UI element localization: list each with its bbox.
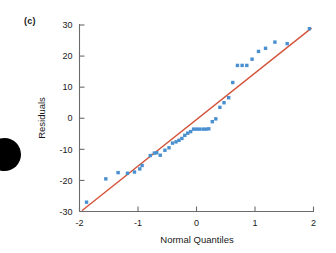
qq-plot: -30-20-100102030 -2-1012 Normal Quantile… — [0, 0, 336, 253]
data-point — [227, 96, 230, 99]
data-point — [222, 101, 225, 104]
data-point — [285, 42, 288, 45]
data-point — [159, 154, 162, 157]
data-point — [264, 47, 267, 50]
data-point — [231, 81, 234, 84]
x-tick-label: -2 — [75, 218, 83, 228]
data-point — [116, 171, 119, 174]
qq-plot-svg: -30-20-100102030 -2-1012 Normal Quantile… — [0, 0, 336, 253]
y-tick-label: -10 — [59, 145, 72, 155]
data-point — [140, 164, 143, 167]
data-point — [201, 127, 204, 130]
reference-line — [82, 28, 311, 210]
figure-panel: (c) -30-20-100102030 -2-1012 Normal Quan… — [0, 0, 336, 253]
data-point — [250, 57, 253, 60]
data-point — [167, 146, 170, 149]
data-point — [273, 40, 276, 43]
reference-line-segment — [82, 28, 311, 210]
data-point — [308, 27, 311, 30]
data-point — [240, 64, 243, 67]
data-point — [155, 151, 158, 154]
data-point — [195, 127, 198, 130]
data-point — [149, 154, 152, 157]
data-point — [189, 130, 192, 133]
data-point — [174, 140, 177, 143]
y-axis-title: Residuals — [36, 97, 47, 139]
data-point — [163, 149, 166, 152]
data-point — [183, 134, 186, 137]
data-point — [133, 170, 136, 173]
data-point — [218, 106, 221, 109]
y-tick-label: 20 — [62, 51, 72, 61]
y-tick-label: 10 — [62, 82, 72, 92]
data-point — [236, 64, 239, 67]
y-tick-label: 0 — [67, 113, 72, 123]
x-axis-title: Normal Quantiles — [160, 234, 234, 245]
data-point — [214, 117, 217, 120]
x-tick-label: 2 — [311, 218, 316, 228]
y-tick-group: -30-20-100102030 — [59, 20, 84, 217]
data-point — [245, 64, 248, 67]
data-point — [204, 127, 207, 130]
axes — [80, 24, 315, 212]
data-point — [207, 127, 210, 130]
data-point — [198, 127, 201, 130]
x-tick-label: 1 — [252, 218, 257, 228]
y-tick-label: 30 — [62, 20, 72, 30]
data-point — [180, 137, 183, 140]
x-tick-label: -1 — [134, 218, 142, 228]
data-point — [104, 177, 107, 180]
y-tick-label: -20 — [59, 176, 72, 186]
data-point — [257, 50, 260, 53]
data-point — [171, 141, 174, 144]
data-point — [192, 127, 195, 130]
data-point — [85, 200, 88, 203]
x-tick-label: 0 — [194, 218, 199, 228]
data-point — [138, 167, 141, 170]
data-point — [186, 131, 189, 134]
data-points — [85, 27, 311, 204]
x-tick-group: -2-1012 — [75, 207, 316, 228]
data-point — [177, 139, 180, 142]
data-point — [126, 172, 129, 175]
data-point — [211, 120, 214, 123]
y-tick-label: -30 — [59, 207, 72, 217]
